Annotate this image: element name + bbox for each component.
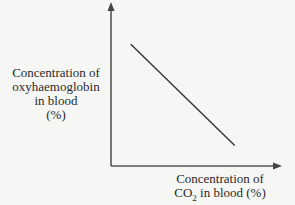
y-axis-label-line: oxyhaemoglobin bbox=[0, 80, 112, 94]
x-axis-label-rest: in blood (%) bbox=[197, 185, 266, 200]
x-axis-label-line: Concentration of bbox=[150, 172, 290, 186]
x-axis-label: Concentration of CO2 in blood (%) bbox=[150, 172, 290, 200]
y-axis-arrow-icon bbox=[108, 2, 115, 11]
series-line bbox=[131, 44, 235, 145]
x-axis-label-line: CO2 in blood (%) bbox=[150, 186, 290, 200]
y-axis-label-line: in blood bbox=[0, 94, 112, 108]
y-axis-label-line: Concentration of bbox=[0, 66, 112, 80]
y-axis-label: Concentration of oxyhaemoglobin in blood… bbox=[0, 66, 112, 122]
x-axis-arrow-icon bbox=[273, 163, 282, 170]
y-axis-label-line: (%) bbox=[0, 108, 112, 122]
co2-text: CO bbox=[174, 185, 192, 200]
